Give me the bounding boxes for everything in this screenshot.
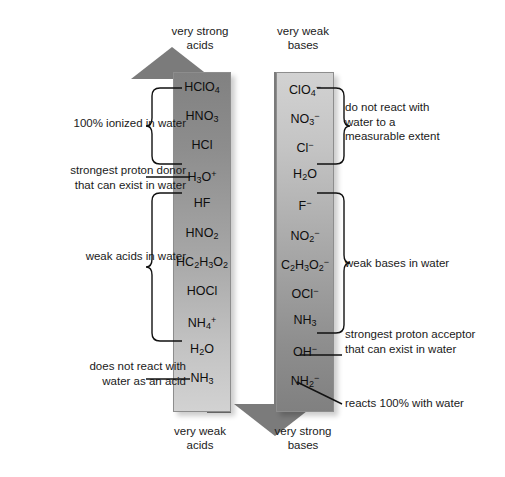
acid-species-NH4+: NH4+ bbox=[159, 314, 245, 333]
note-line: strongest proton acceptor bbox=[345, 327, 505, 342]
note-line: reacts 100% with water bbox=[345, 396, 505, 411]
caption-very-weak-acids: very weak acids bbox=[140, 424, 260, 452]
base-species-OH-: OH− bbox=[262, 343, 348, 359]
base-species-OCl-: OCl− bbox=[262, 285, 348, 301]
caption-very-strong-bases: very strong bases bbox=[243, 424, 363, 452]
caption-line: bases bbox=[243, 438, 363, 452]
caption-line: acids bbox=[140, 438, 260, 452]
base-species-F-: F− bbox=[262, 197, 348, 213]
caption-line: very weak bbox=[140, 424, 260, 438]
base-species-H2O: H2O bbox=[262, 168, 348, 184]
note-line: that can exist in water bbox=[345, 342, 505, 357]
base-species-ClO4-: ClO4− bbox=[262, 81, 348, 100]
acid-species-HNO3: HNO3 bbox=[159, 110, 245, 126]
base-species-NO2-: NO2− bbox=[262, 227, 348, 246]
acid-species-NH3: NH3 bbox=[159, 372, 245, 388]
note-weak-bases-in-water: weak bases in water bbox=[345, 256, 505, 271]
acid-base-strength-diagram: very strong acids very weak bases HClO4H… bbox=[0, 0, 505, 477]
base-species-C2H3O2-: C2H3O2− bbox=[262, 256, 348, 275]
caption-line: bases bbox=[243, 38, 363, 52]
note-line: water to a bbox=[345, 115, 505, 130]
acid-species-H3O+: H3O+ bbox=[159, 168, 245, 187]
note-reacts-100-percent: reacts 100% with water bbox=[345, 396, 505, 411]
acid-species-HC2H3O2: HC2H3O2 bbox=[159, 256, 245, 272]
note-do-not-react-measurable: do not react with water to a measurable … bbox=[345, 100, 505, 144]
caption-line: very weak bbox=[243, 24, 363, 38]
base-species-NO3-: NO3− bbox=[262, 110, 348, 129]
caption-line: very strong bbox=[243, 424, 363, 438]
base-species-NH3: NH3 bbox=[262, 314, 348, 330]
note-line: weak bases in water bbox=[345, 256, 505, 271]
base-species-Cl-: Cl− bbox=[262, 139, 348, 155]
acid-species-HClO4: HClO4 bbox=[159, 81, 245, 97]
acid-species-H2O: H2O bbox=[159, 343, 245, 359]
note-line: do not react with bbox=[345, 100, 505, 115]
acid-species-HF: HF bbox=[159, 197, 245, 210]
base-species-NH2-: NH2− bbox=[262, 372, 348, 391]
acid-species-HOCl: HOCl bbox=[159, 285, 245, 298]
note-strongest-proton-acceptor: strongest proton acceptor that can exist… bbox=[345, 327, 505, 356]
note-line: measurable extent bbox=[345, 129, 505, 144]
caption-line: very strong bbox=[140, 24, 260, 38]
acid-species-HNO2: HNO2 bbox=[159, 227, 245, 243]
caption-very-weak-bases: very weak bases bbox=[243, 24, 363, 52]
acid-species-HCl: HCl bbox=[159, 139, 245, 152]
